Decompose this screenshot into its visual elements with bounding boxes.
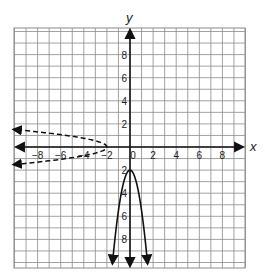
y-tick-label: 4	[121, 96, 127, 107]
x-axis-label: x	[249, 139, 257, 154]
x-tick-label: −6	[55, 150, 67, 161]
x-tick-label: 0	[130, 150, 136, 161]
coordinate-plane-chart: −8−6−4−20246886422468 x y	[0, 0, 265, 277]
y-axis-label: y	[125, 10, 134, 25]
y-tick-label: 8	[121, 50, 127, 61]
y-tick-label: 8	[121, 234, 127, 245]
axes	[16, 30, 243, 266]
y-tick-label: 6	[121, 211, 127, 222]
x-tick-label: 6	[197, 150, 203, 161]
y-tick-label: 2	[121, 165, 127, 176]
x-tick-label: −4	[78, 150, 90, 161]
x-tick-label: 2	[150, 150, 156, 161]
x-tick-label: 8	[220, 150, 226, 161]
y-tick-label: 2	[121, 119, 127, 130]
y-tick-label: 6	[121, 73, 127, 84]
x-tick-label: 4	[173, 150, 179, 161]
x-tick-label: −8	[32, 150, 44, 161]
y-tick-label: 4	[121, 188, 127, 199]
x-tick-label: −2	[101, 150, 113, 161]
